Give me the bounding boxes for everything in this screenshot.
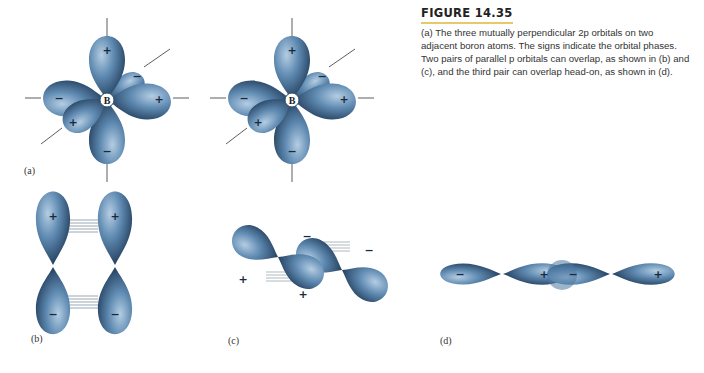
svg-text:+: +	[253, 116, 262, 129]
svg-text:−: −	[110, 308, 119, 321]
panel-label-c: (c)	[228, 335, 239, 346]
figure-caption: (a) The three mutually perpendicular 2p …	[421, 26, 691, 78]
svg-text:−: −	[317, 70, 326, 83]
svg-text:−: −	[239, 92, 248, 105]
svg-text:+: +	[339, 93, 348, 106]
panel-b-orbitals: + + − −	[36, 191, 132, 334]
svg-text:+: +	[154, 93, 163, 106]
svg-text:−: −	[48, 308, 57, 321]
svg-text:+: +	[539, 268, 548, 281]
panel-label-a: (a)	[24, 165, 35, 176]
svg-text:−: −	[132, 70, 141, 83]
boron-label-a1: B	[104, 95, 111, 106]
svg-text:−: −	[102, 145, 111, 158]
panel-c-orbitals: − − + +	[226, 219, 394, 308]
svg-text:+: +	[102, 44, 111, 57]
svg-text:−: −	[364, 244, 373, 257]
boron-atom-left: B + − + − + −	[25, 18, 189, 182]
svg-text:+: +	[110, 210, 119, 223]
panel-label-b: (b)	[31, 333, 43, 344]
panel-label-d: (d)	[440, 335, 452, 346]
svg-text:−: −	[287, 145, 296, 158]
svg-text:−: −	[54, 92, 63, 105]
svg-text:+: +	[653, 268, 662, 281]
svg-text:−: −	[568, 268, 577, 281]
svg-text:−: −	[302, 230, 311, 243]
panel-d-orbitals: − + − +	[440, 260, 675, 290]
figure-title: FIGURE 14.35	[421, 6, 513, 24]
boron-label-a2: B	[289, 95, 296, 106]
svg-text:+: +	[287, 44, 296, 57]
svg-text:+: +	[238, 273, 247, 286]
svg-text:+: +	[68, 116, 77, 129]
boron-atom-right: B + − + − + −	[210, 18, 374, 182]
svg-text:−: −	[455, 268, 464, 281]
svg-text:+: +	[298, 288, 307, 301]
svg-text:+: +	[48, 210, 57, 223]
